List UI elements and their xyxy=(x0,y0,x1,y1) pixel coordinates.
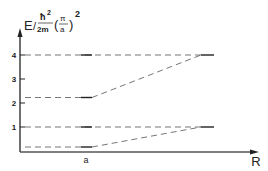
x-axis-label: R xyxy=(251,154,260,169)
y-label-lparen: ( xyxy=(54,17,59,32)
correlation-0.25-to-1 xyxy=(92,127,201,147)
y-label-2m: 2m xyxy=(37,25,49,34)
y-axis-arrow-icon xyxy=(18,28,23,37)
y-tick-label-4: 4 xyxy=(12,51,17,60)
x-tick-label-a: a xyxy=(83,155,88,165)
y-label-E: E xyxy=(24,18,33,33)
correlation-2.25-to-4 xyxy=(92,55,201,98)
y-label-outer-exp: 2 xyxy=(75,9,80,19)
y-axis-label: E / ħ 2 2m ( π a ) 2 xyxy=(24,9,80,34)
energy-level-diagram: 4 3 2 1 a R E / ħ 2 2m ( π a ) 2 xyxy=(0,0,268,171)
y-tick-label-2: 2 xyxy=(12,99,17,108)
y-label-a: a xyxy=(60,25,65,34)
y-label-hbar-exp: 2 xyxy=(47,9,51,16)
y-label-pi: π xyxy=(60,14,66,23)
y-label-hbar: ħ xyxy=(40,12,46,22)
y-tick-label-3: 3 xyxy=(12,75,17,84)
y-label-rparen: ) xyxy=(69,17,73,32)
y-tick-label-1: 1 xyxy=(12,123,17,132)
